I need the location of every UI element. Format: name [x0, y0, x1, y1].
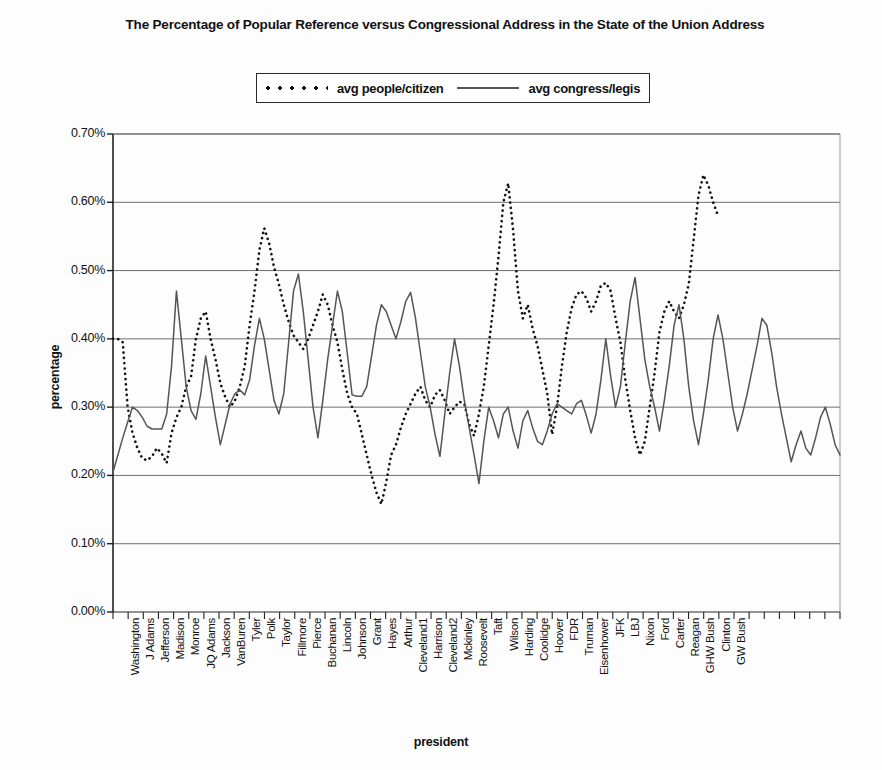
x-axis-tick-label: Roosevelt: [477, 618, 489, 666]
x-axis-tick-label: Ford: [659, 618, 671, 640]
x-axis-tick-label: J Adams: [144, 618, 156, 660]
x-axis-tick-label: Wilson: [508, 618, 520, 651]
x-axis-tick-label: Tyler: [250, 618, 262, 641]
x-axis-tick-label: Fillmore: [296, 618, 308, 657]
plot-area: 0.00%0.10%0.20%0.30%0.40%0.50%0.60%0.70%…: [0, 0, 882, 770]
figure-container: The Percentage of Popular Reference vers…: [0, 0, 882, 770]
x-axis-tick-label: Grant: [371, 618, 383, 645]
x-axis-tick-label: Pierce: [311, 618, 323, 649]
x-axis-tick-label: Hoover: [553, 618, 565, 653]
x-axis-tick-label: Johnson: [356, 618, 368, 659]
x-axis-tick-label: Clinton: [720, 618, 732, 652]
x-axis-tick-label: Cleveland2: [447, 618, 459, 673]
y-axis-tick-label: 0.00%: [39, 604, 105, 618]
x-axis-tick-label: Carter: [674, 618, 686, 648]
x-axis-tick-label: GW Bush: [735, 618, 747, 665]
x-axis-tick-label: Jackson: [220, 618, 232, 658]
x-axis-tick-label: Jefferson: [159, 618, 171, 662]
x-axis-tick-label: Arthur: [402, 618, 414, 648]
x-axis-tick-label: LBJ: [629, 618, 641, 637]
y-axis-tick-label: 0.50%: [39, 263, 105, 277]
y-axis-title: percentage: [48, 317, 62, 437]
x-axis-tick-label: Monroe: [189, 618, 201, 655]
x-axis-tick-label: VanBuren: [235, 618, 247, 666]
x-axis-tick-label: JFK: [614, 618, 626, 638]
x-axis-tick-label: Taft: [492, 618, 504, 635]
x-axis-tick-label: Madison: [174, 618, 186, 659]
x-axis-tick-label: Taylor: [280, 618, 292, 647]
y-axis-tick-label: 0.10%: [39, 536, 105, 550]
y-axis-tick-label: 0.60%: [39, 194, 105, 208]
x-axis-tick-label: Washington: [129, 618, 141, 675]
x-axis-tick-label: Mckinley: [462, 618, 474, 660]
x-axis-tick-label: Harding: [523, 618, 535, 656]
x-axis-tick-label: Polk: [265, 618, 277, 639]
series-line-1: [113, 175, 718, 504]
x-axis-tick-label: Harrison: [432, 618, 444, 659]
x-axis-tick-label: Lincoln: [341, 618, 353, 652]
series-line-2: [113, 274, 840, 484]
y-axis-tick-label: 0.70%: [39, 126, 105, 140]
y-axis-tick-label: 0.20%: [39, 467, 105, 481]
x-axis-tick-label: FDR: [568, 618, 580, 641]
x-axis-tick-label: Hayes: [386, 618, 398, 649]
x-axis-tick-label: JQ Adams: [205, 618, 217, 669]
x-axis-tick-label: GHW Bush: [704, 618, 716, 673]
x-axis-tick-label: Truman: [583, 618, 595, 655]
x-axis-tick-label: Reagan: [689, 618, 701, 656]
x-axis-tick-label: Eisenhower: [598, 618, 610, 675]
x-axis-tick-label: Cleveland1: [417, 618, 429, 673]
x-axis-title: president: [0, 735, 882, 749]
x-axis-tick-label: Coolidge: [538, 618, 550, 661]
x-axis-tick-label: Buchanan: [326, 618, 338, 667]
x-axis-tick-label: Nixon: [644, 618, 656, 646]
